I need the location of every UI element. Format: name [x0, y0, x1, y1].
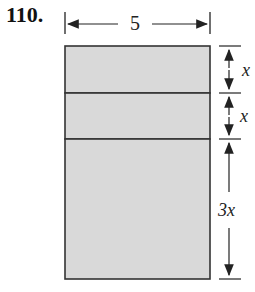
segment-top: [65, 46, 210, 93]
height-dimensions: [219, 46, 241, 279]
segment-label-middle: x: [240, 106, 248, 127]
segment-label-top: x: [242, 60, 250, 81]
rectangle-diagram: [0, 0, 255, 292]
segment-middle: [65, 93, 210, 139]
rectangle: [65, 46, 210, 279]
segment-label-bottom: 3x: [218, 200, 235, 221]
segment-bottom: [65, 139, 210, 279]
width-label: 5: [130, 12, 140, 35]
